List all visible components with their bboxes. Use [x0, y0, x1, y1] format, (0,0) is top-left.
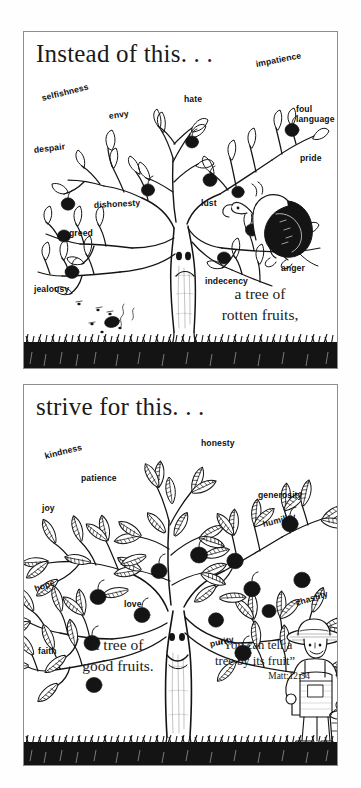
label-envy: envy	[108, 109, 129, 121]
panel-heading-strive-for-this: strive for this. . .	[36, 393, 205, 421]
label-patience: patience	[81, 474, 117, 484]
label-kindness: kindness	[44, 443, 83, 462]
label-generosity: generosity	[258, 491, 302, 501]
label-foul-language: foul language	[296, 105, 335, 124]
ground-grass-bottom	[24, 735, 337, 765]
panel-strive-for-this: strive for this. . . a tree of good frui…	[23, 384, 338, 766]
caption-rotten-fruits: a tree of rotten fruits,	[200, 284, 320, 326]
label-hope: hope	[33, 578, 56, 594]
label-joy: joy	[42, 504, 55, 514]
good-tree-artwork	[24, 385, 337, 765]
panel-instead-of-this: Instead of this. . . a tree of rotten fr…	[23, 31, 338, 369]
caption-good-fruits: a tree of good fruits.	[54, 635, 182, 677]
label-pride: pride	[300, 154, 322, 164]
label-hate: hate	[184, 95, 202, 105]
label-chastity: chastity	[295, 589, 330, 608]
label-selfishness: selfishness	[41, 83, 90, 104]
label-anger: anger	[281, 264, 305, 274]
label-love: love	[124, 600, 142, 610]
label-dishonesty: dishonesty	[94, 199, 141, 211]
scripture-quote-reference: Matt:12:34	[196, 671, 314, 681]
label-greed: greed	[69, 229, 93, 239]
label-indecency: indecency	[205, 277, 248, 287]
label-jealousy: jealousy	[34, 285, 69, 295]
panel-heading-instead-of-this: Instead of this. . .	[36, 40, 213, 68]
label-humility: humility	[262, 512, 297, 530]
label-faith: faith	[38, 647, 57, 657]
label-honesty: honesty	[201, 439, 235, 449]
label-impatience: impatience	[255, 51, 302, 69]
ground-grass-top	[24, 334, 337, 368]
label-despair: despair	[33, 142, 65, 155]
poster-root: Instead of this. . . a tree of rotten fr…	[0, 0, 361, 788]
label-lust: lust	[201, 199, 217, 209]
